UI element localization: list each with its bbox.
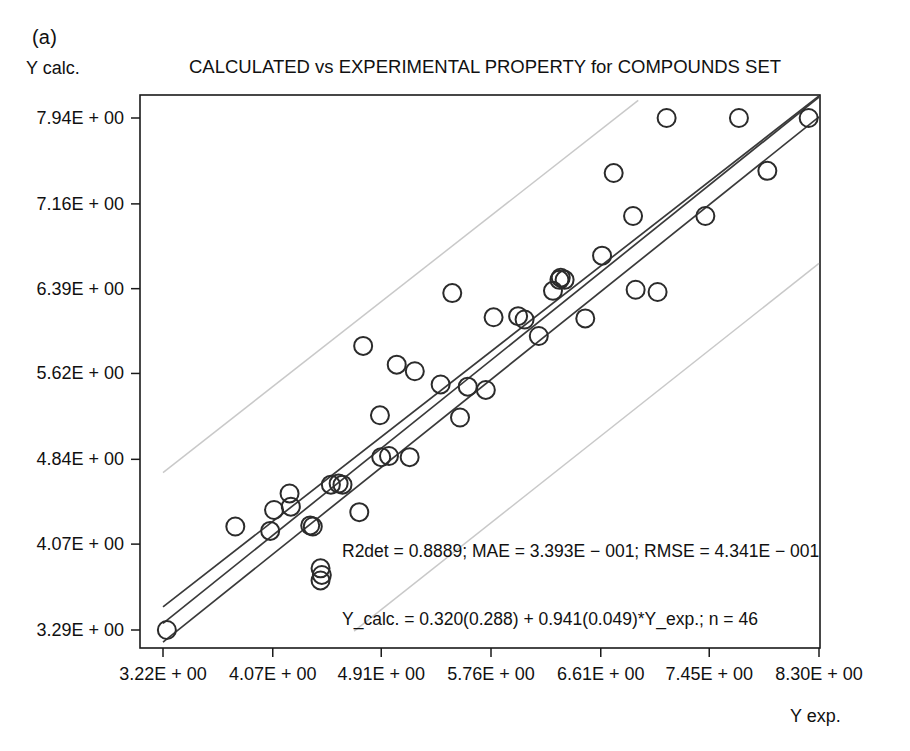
data-point [730, 109, 748, 127]
x-tick-label: 7.45E + 00 [665, 664, 753, 684]
scatter-plot: 3.22E + 004.07E + 004.91E + 005.76E + 00… [0, 0, 910, 751]
data-point [459, 378, 477, 396]
data-point [649, 283, 667, 301]
x-tick-label: 4.07E + 00 [229, 664, 317, 684]
data-point [658, 109, 676, 127]
x-tick-label: 8.30E + 00 [775, 664, 863, 684]
data-point [401, 448, 419, 466]
data-point [544, 282, 562, 300]
data-point [354, 337, 372, 355]
y-axis-ticks: 3.29E + 004.07E + 004.84E + 005.62E + 00… [36, 108, 140, 640]
data-point [605, 164, 623, 182]
data-point [624, 207, 642, 225]
data-point [281, 484, 299, 502]
model-equation-annotation: Y_calc. = 0.320(0.288) + 0.941(0.049)*Y_… [342, 609, 758, 630]
data-point [443, 284, 461, 302]
x-tick-label: 5.76E + 00 [447, 664, 535, 684]
data-point [696, 207, 714, 225]
y-tick-label: 7.94E + 00 [36, 108, 124, 128]
data-point [350, 503, 368, 521]
y-tick-label: 5.62E + 00 [36, 363, 124, 383]
y-tick-label: 4.07E + 00 [36, 534, 124, 554]
statistics-annotation-line1: R2det = 0.8889; MAE = 3.393E − 001; RMSE… [342, 541, 819, 561]
data-point [451, 408, 469, 426]
data-point [485, 308, 503, 326]
data-point [593, 247, 611, 265]
x-tick-label: 6.61E + 00 [557, 664, 645, 684]
confidence-lower-line [163, 117, 819, 642]
y-tick-label: 3.29E + 00 [36, 620, 124, 640]
y-tick-label: 7.16E + 00 [36, 194, 124, 214]
data-point [158, 621, 176, 639]
x-tick-label: 4.91E + 00 [337, 664, 425, 684]
data-point [226, 517, 244, 535]
data-point [388, 356, 406, 374]
y-tick-label: 4.84E + 00 [36, 449, 124, 469]
figure-container: (a) Y calc. CALCULATED vs EXPERIMENTAL P… [0, 0, 910, 751]
x-tick-label: 3.22E + 00 [119, 664, 207, 684]
data-point [627, 281, 645, 299]
data-point [371, 406, 389, 424]
x-axis-ticks: 3.22E + 004.07E + 004.91E + 005.76E + 00… [119, 648, 863, 684]
data-point [576, 309, 594, 327]
lower-prediction-band [354, 263, 819, 631]
y-tick-label: 6.39E + 00 [36, 279, 124, 299]
data-point [758, 162, 776, 180]
data-point [406, 362, 424, 380]
data-point [265, 501, 283, 519]
